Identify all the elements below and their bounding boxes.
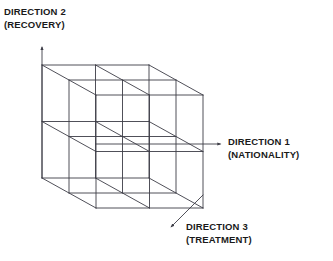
cube-lattice	[42, 65, 203, 208]
axis-label-direction-3: DIRECTION 3 (TREATMENT)	[186, 221, 252, 246]
axis-label-direction-2-name: DIRECTION 2	[4, 6, 66, 17]
figure-canvas: DIRECTION 2 (RECOVERY) DIRECTION 1 (NATI…	[0, 0, 333, 261]
axis-label-direction-2: DIRECTION 2 (RECOVERY)	[4, 6, 66, 31]
axis-label-direction-1-qualifier: (NATIONALITY)	[228, 149, 299, 162]
axis-label-direction-2-qualifier: (RECOVERY)	[4, 19, 66, 32]
axis-label-direction-3-qualifier: (TREATMENT)	[186, 234, 252, 247]
axis-label-direction-1-name: DIRECTION 1	[228, 136, 290, 147]
cube-grid-drawing	[0, 0, 333, 261]
axis-label-direction-1: DIRECTION 1 (NATIONALITY)	[228, 136, 299, 161]
axis-label-direction-3-name: DIRECTION 3	[186, 221, 248, 232]
